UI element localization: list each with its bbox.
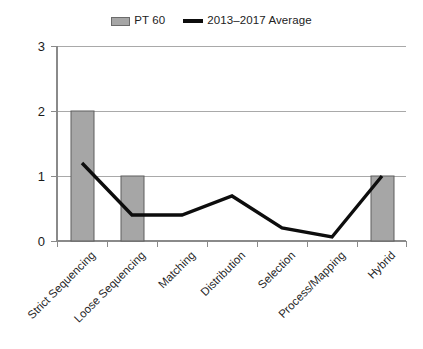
x-tick-label-selection: Selection bbox=[255, 249, 297, 291]
bar-strict-sequencing bbox=[71, 111, 94, 241]
y-tick-label-2: 2 bbox=[38, 104, 45, 119]
x-tick-label-matching: Matching bbox=[156, 249, 197, 290]
y-tick-label-0: 0 bbox=[38, 234, 45, 249]
x-tick-label-distribution: Distribution bbox=[198, 249, 247, 298]
chart-plot-area: 0 1 2 3 Strict Sequencing Loose Sequenci… bbox=[0, 0, 423, 349]
x-tick-label-hybrid: Hybrid bbox=[365, 249, 397, 281]
x-tick-labels: Strict Sequencing Loose Sequencing Match… bbox=[25, 249, 397, 325]
chart-container: PT 60 2013–2017 Average bbox=[0, 0, 423, 349]
y-tick-label-1: 1 bbox=[38, 169, 45, 184]
x-tick-marks bbox=[57, 241, 406, 247]
gridlines bbox=[57, 46, 406, 176]
y-tick-marks bbox=[51, 46, 57, 241]
y-tick-labels: 0 1 2 3 bbox=[38, 39, 45, 249]
axes bbox=[51, 46, 406, 247]
y-tick-label-3: 3 bbox=[38, 39, 45, 54]
